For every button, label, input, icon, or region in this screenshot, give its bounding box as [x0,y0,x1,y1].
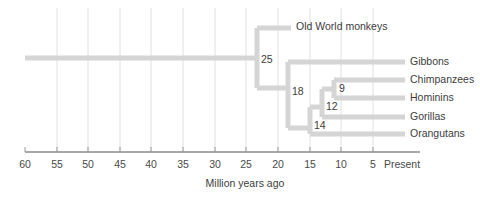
tick-label-10: 10 [335,158,347,170]
x-axis-title: Million years ago [206,177,285,189]
node-label-18: 18 [292,85,304,97]
phylogenetic-tree-figure: 25 18 9 12 14 Old World monkeys Gibbons … [0,0,480,198]
leaf-label-gibbons: Gibbons [410,55,449,67]
tick-label-45: 45 [114,158,126,170]
tree-canvas: 25 18 9 12 14 Old World monkeys Gibbons … [0,0,480,198]
tick-label-5: 5 [370,158,376,170]
node-label-9: 9 [339,82,345,94]
leaf-label-orangutans: Orangutans [410,127,465,139]
node-label-25: 25 [261,53,273,65]
leaf-label-old-world-monkeys: Old World monkeys [296,20,387,32]
tick-label-25: 25 [240,158,252,170]
tick-label-30: 30 [209,158,221,170]
leaf-label-gorillas: Gorillas [410,110,446,122]
node-label-14: 14 [314,119,326,131]
tick-label-40: 40 [145,158,157,170]
tick-label-60: 60 [19,158,31,170]
leaf-label-hominins: Hominins [410,91,454,103]
tick-label-20: 20 [272,158,284,170]
tick-label-50: 50 [82,158,94,170]
x-axis: 60 55 50 45 40 35 30 25 20 15 10 5 Prese… [19,147,420,189]
tick-label-55: 55 [51,158,63,170]
tick-label-35: 35 [177,158,189,170]
tick-label-present: Present [384,158,420,170]
node-label-12: 12 [326,100,338,112]
tick-label-15: 15 [304,158,316,170]
leaf-label-chimpanzees: Chimpanzees [410,73,474,85]
